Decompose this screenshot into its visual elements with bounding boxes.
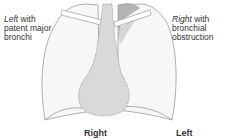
left-label: Left with patent major bronchi xyxy=(4,15,51,42)
bottom-label-right: Right xyxy=(84,128,107,138)
bottom-label-left: Left xyxy=(176,128,193,138)
right-label: Right with bronchial obstruction xyxy=(172,15,214,42)
